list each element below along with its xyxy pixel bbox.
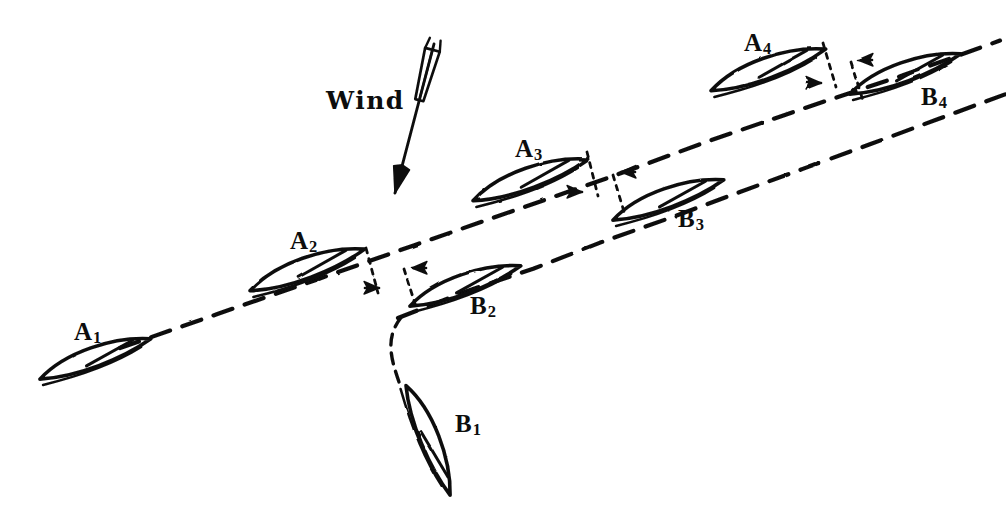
boat-label-b3: B3	[678, 206, 704, 233]
boat-a2	[250, 249, 365, 297]
diagram-artwork	[0, 0, 1006, 526]
boat-label-letter: A	[74, 318, 92, 345]
boat-label-subscript: 3	[533, 145, 542, 164]
wind-arrow-fletching	[415, 48, 440, 101]
boat-label-a2: A2	[290, 228, 317, 255]
boat-b1	[401, 386, 451, 496]
gap-A3-B3	[567, 152, 636, 215]
boat-label-letter: A	[515, 135, 533, 162]
boat-label-letter: B	[921, 83, 938, 110]
boat-label-subscript: 4	[762, 39, 771, 58]
track-B-start-curve	[391, 312, 406, 382]
boat-label-letter: A	[744, 29, 762, 56]
boat-a3	[473, 159, 588, 207]
gap-markers-group	[364, 43, 873, 310]
boat-hull	[406, 386, 450, 496]
wind-label: Wind	[326, 88, 405, 113]
boat-label-subscript: 2	[308, 237, 317, 256]
boat-label-subscript: 1	[92, 328, 101, 347]
boat-hull	[613, 180, 724, 221]
wind-arrow-group	[394, 38, 441, 193]
boat-label-letter: A	[290, 227, 308, 254]
boat-label-letter: B	[455, 410, 472, 437]
boat-label-subscript: 1	[472, 420, 481, 439]
boat-label-subscript: 2	[487, 302, 496, 321]
diagram-canvas: A1A2A3A4B1B2B3B4Wind	[0, 0, 1006, 526]
boat-label-a3: A3	[515, 136, 542, 163]
boat-label-a1: A1	[74, 319, 101, 346]
wind-arrow-head	[394, 165, 410, 193]
track-A	[120, 41, 1000, 348]
boat-label-b1: B1	[455, 411, 481, 438]
boat-label-a4: A4	[744, 30, 771, 57]
boat-label-letter: B	[678, 205, 695, 232]
boat-label-b4: B4	[921, 84, 947, 111]
boat-label-subscript: 4	[938, 93, 947, 112]
boat-label-b2: B2	[470, 293, 496, 320]
boats-group	[40, 49, 961, 495]
boat-label-subscript: 3	[695, 215, 704, 234]
boat-label-letter: B	[470, 292, 487, 319]
boat-hull	[410, 266, 521, 307]
